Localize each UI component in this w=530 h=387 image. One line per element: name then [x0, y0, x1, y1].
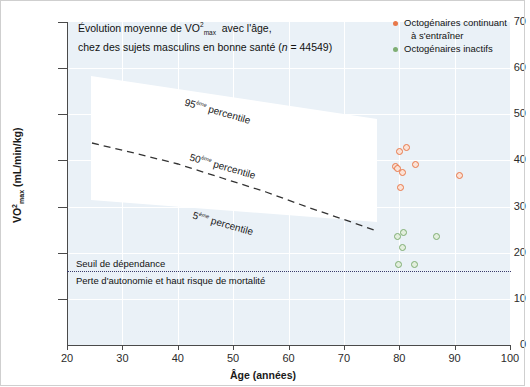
x-tick-label: 40: [158, 352, 198, 364]
threshold-label-below: Perte d'autonomie et haut risque de mort…: [76, 275, 265, 286]
data-point-orange: [456, 172, 463, 179]
data-point-orange: [412, 161, 419, 168]
x-tick: [455, 345, 456, 350]
y-axis-title: VO2max (mL/min/kg): [11, 105, 26, 245]
data-point-orange: [397, 184, 404, 191]
x-tick: [67, 345, 68, 350]
y-tick: [58, 207, 67, 208]
dependency-threshold-line: [67, 271, 511, 272]
y-tick: [58, 160, 67, 161]
data-point-orange: [396, 148, 403, 155]
x-tick: [510, 345, 511, 350]
threshold-label-above: Seuil de dépendance: [76, 258, 165, 269]
x-tick: [289, 345, 290, 350]
y-axis-title-units: (mL/min/kg): [11, 128, 23, 190]
x-tick-label: 70: [324, 352, 364, 364]
median-percentile-curve: [67, 22, 510, 345]
y-tick: [58, 114, 67, 115]
y-tick: [58, 22, 67, 23]
data-point-orange: [399, 169, 406, 176]
y-axis-title-sup: 2: [11, 204, 18, 208]
x-tick-label: 20: [47, 352, 87, 364]
data-point-orange: [403, 144, 410, 151]
x-tick-label: 100: [490, 352, 530, 364]
x-tick-label: 60: [269, 352, 309, 364]
x-tick: [233, 345, 234, 350]
y-tick: [58, 68, 67, 69]
y-tick: [58, 299, 67, 300]
y-tick: [58, 253, 67, 254]
y-axis-title-main: VO: [11, 208, 23, 223]
x-tick: [122, 345, 123, 350]
x-axis-title: Âge (années): [0, 369, 526, 381]
x-tick: [344, 345, 345, 350]
x-tick-label: 80: [379, 352, 419, 364]
data-point-green: [395, 261, 402, 268]
x-tick-label: 30: [102, 352, 142, 364]
data-point-green: [399, 244, 406, 251]
x-tick-label: 50: [213, 352, 253, 364]
x-tick: [399, 345, 400, 350]
x-tick-label: 90: [435, 352, 475, 364]
y-axis-title-sub: max: [18, 190, 25, 204]
data-point-green: [433, 233, 440, 240]
x-tick: [178, 345, 179, 350]
